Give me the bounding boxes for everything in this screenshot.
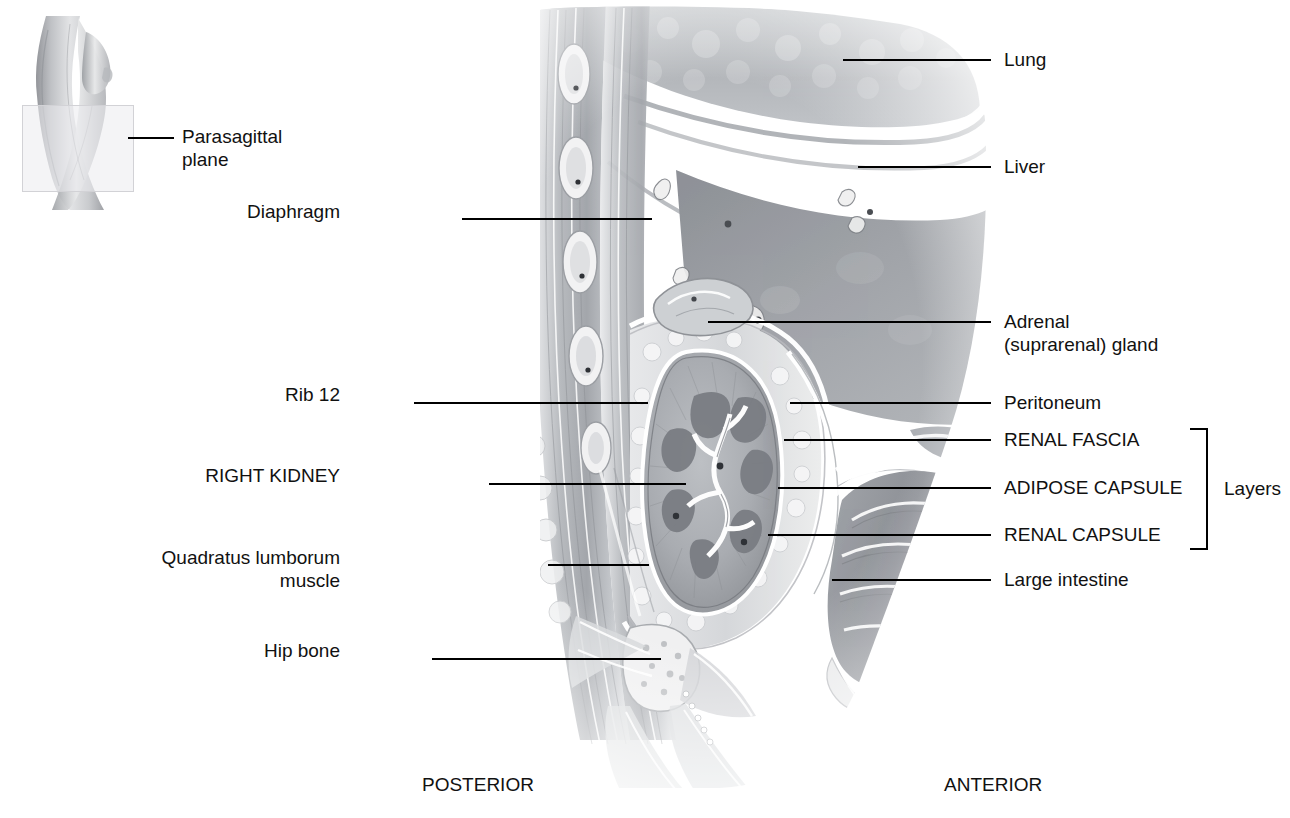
leader-line-liver [858, 166, 991, 168]
leader-line-lung [843, 59, 991, 61]
leader-line-parasagittal-plane [128, 137, 174, 139]
label-anterior: ANTERIOR [944, 773, 1042, 796]
label-lung: Lung [1004, 48, 1046, 71]
leader-line-renal-fascia [784, 439, 991, 441]
adrenal-gland [654, 278, 753, 335]
label-liver: Liver [1004, 155, 1045, 178]
parasagittal-plane-box [22, 105, 134, 192]
leader-line-hip-bone [432, 658, 661, 660]
layers-bracket-bottom-arm [1190, 548, 1208, 550]
label-quadratus-lumborum-muscle: Quadratus lumborum muscle [100, 546, 340, 592]
large-intestine [827, 426, 1017, 722]
label-rib-12: Rib 12 [140, 383, 340, 406]
label-hip-bone: Hip bone [140, 639, 340, 662]
label-layers: Layers [1224, 477, 1281, 500]
label-posterior: POSTERIOR [422, 773, 534, 796]
leader-line-quadratus-lumborum [548, 564, 649, 566]
kidney-section-illustration [480, 0, 1040, 790]
leader-line-large-intestine [832, 579, 991, 581]
layers-bracket-spine [1206, 428, 1208, 550]
label-parasagittal-plane-line2: plane [182, 148, 229, 171]
label-parasagittal-plane-line1: Parasagittal [182, 125, 282, 148]
label-renal-fascia: RENAL FASCIA [1004, 428, 1140, 451]
figure-canvas: Parasagittal plane [0, 0, 1290, 818]
leader-line-adipose-capsule [778, 487, 991, 489]
leader-line-right-kidney [489, 483, 686, 485]
label-adrenal-gland: Adrenal (suprarenal) gland [1004, 310, 1158, 356]
layers-bracket-top-arm [1190, 428, 1208, 430]
leader-line-diaphragm [462, 218, 652, 220]
leader-line-peritoneum [790, 402, 991, 404]
label-right-kidney: RIGHT KIDNEY [120, 464, 340, 487]
body-inset [8, 10, 168, 210]
label-large-intestine: Large intestine [1004, 568, 1129, 591]
label-adipose-capsule: ADIPOSE CAPSULE [1004, 476, 1182, 499]
leader-line-rib-12 [414, 402, 648, 404]
rib-12-cross-section [569, 326, 603, 386]
leader-line-renal-capsule [768, 534, 991, 536]
leader-line-adrenal-gland [708, 321, 991, 323]
label-peritoneum: Peritoneum [1004, 391, 1101, 414]
label-renal-capsule: RENAL CAPSULE [1004, 523, 1161, 546]
label-diaphragm: Diaphragm [140, 200, 340, 223]
